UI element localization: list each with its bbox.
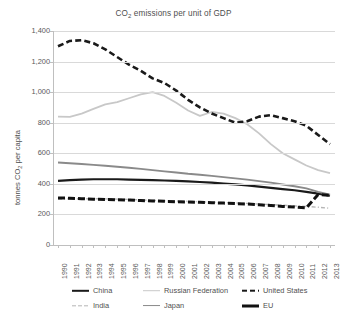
x-axis-tick-label: 1992	[85, 263, 92, 279]
series-line-china	[58, 179, 330, 196]
y-axis-tick-label: 200	[6, 210, 50, 217]
x-axis-tickmark	[129, 245, 130, 248]
x-axis-tick-label: 1996	[132, 263, 139, 279]
series-line-russian-federation	[58, 92, 330, 173]
gridline	[53, 214, 335, 215]
chart-title: CO2 emissions per unit of GDP	[0, 9, 347, 18]
x-axis-tickmark	[330, 245, 331, 248]
x-axis-tick-label: 2009	[286, 263, 293, 279]
x-axis-tick-label: 2001	[191, 263, 198, 279]
x-axis-tick-label: 2000	[179, 263, 186, 279]
chart-title-text-main: CO	[116, 9, 128, 18]
x-axis-tick-label: 1994	[108, 263, 115, 279]
legend-item-china[interactable]: China	[72, 286, 112, 295]
x-axis-tickmark	[224, 245, 225, 248]
x-axis-tickmark	[200, 245, 201, 248]
y-axis-tickmark	[50, 245, 53, 246]
x-axis-tickmark	[283, 245, 284, 248]
legend-item-japan[interactable]: Japan	[143, 301, 184, 310]
x-axis-tick-label: 2012	[321, 263, 328, 279]
y-axis-tick-label: 1,200	[6, 58, 50, 65]
x-axis-tickmark	[259, 245, 260, 248]
x-axis-tick-label: 2006	[250, 263, 257, 279]
x-axis-tick-label: 1991	[73, 263, 80, 279]
x-axis-tickmark	[318, 245, 319, 248]
y-axis-line	[53, 31, 54, 245]
legend-label: India	[93, 301, 109, 310]
legend-swatch-icon	[242, 302, 259, 309]
gridline	[53, 62, 335, 63]
y-axis-tick-label: 0	[6, 241, 50, 248]
x-axis-tickmark	[105, 245, 106, 248]
x-axis-tick-label: 2005	[238, 263, 245, 279]
gridline	[53, 184, 335, 185]
x-axis-tick-label: 2008	[274, 263, 281, 279]
legend-swatch-icon	[72, 302, 89, 309]
gridline	[53, 245, 335, 246]
x-axis-tickmark	[247, 245, 248, 248]
x-axis-tickmark	[212, 245, 213, 248]
legend-item-eu[interactable]: EU	[242, 301, 273, 310]
x-axis-tick-label: 2003	[215, 263, 222, 279]
gridline	[53, 31, 335, 32]
gridline	[53, 123, 335, 124]
legend-label: Russian Federation	[164, 286, 228, 295]
x-axis-tick-label: 1999	[167, 263, 174, 279]
gridline	[53, 153, 335, 154]
legend-item-united-states[interactable]: United States	[242, 286, 307, 295]
x-axis-tickmark	[93, 245, 94, 248]
x-axis-tick-label: 2011	[309, 264, 316, 279]
x-axis-tick-label: 2010	[298, 263, 305, 279]
x-axis-tickmark	[141, 245, 142, 248]
x-axis-tickmark	[176, 245, 177, 248]
y-axis-tick-label: 1,000	[6, 88, 50, 95]
x-axis-tick-label: 1995	[120, 263, 127, 279]
chart-title-text-rest: emissions per unit of GDP	[131, 9, 231, 18]
x-axis-tick-label: 1993	[96, 263, 103, 279]
x-axis-tick-label: 2013	[333, 263, 340, 279]
y-axis-tick-label: 600	[6, 149, 50, 156]
legend-swatch-icon	[143, 287, 160, 294]
y-axis-tick-label: 1,400	[6, 27, 50, 34]
x-axis-tick-label: 1998	[156, 263, 163, 279]
legend-label: Japan	[164, 301, 184, 310]
x-axis-tick-label: 1997	[144, 263, 151, 279]
x-axis-tickmark	[271, 245, 272, 248]
x-axis-tick-label: 1990	[61, 263, 68, 279]
legend-row-2: IndiaJapanEU	[0, 301, 347, 316]
x-axis-tickmark	[295, 245, 296, 248]
x-axis-tickmark	[153, 245, 154, 248]
chart-title-subscript: 2	[128, 13, 131, 19]
x-axis-tickmark	[188, 245, 189, 248]
legend-swatch-icon	[143, 302, 160, 309]
x-axis-tick-label: 2002	[203, 263, 210, 279]
x-axis-tickmark	[306, 245, 307, 248]
legend-label: United States	[263, 286, 307, 295]
series-lines	[53, 31, 335, 245]
x-axis-tick-label: 2007	[262, 263, 269, 279]
x-axis-tickmark	[70, 245, 71, 248]
x-axis-tickmark	[58, 245, 59, 248]
x-axis-tickmark	[117, 245, 118, 248]
x-axis-tick-label: 2004	[227, 263, 234, 279]
plot-area	[53, 31, 335, 245]
gridline	[53, 92, 335, 93]
chart-container: CO2 emissions per unit of GDP tonnes CO2…	[0, 0, 347, 328]
y-axis-tick-label: 400	[6, 180, 50, 187]
legend-label: China	[93, 286, 112, 295]
x-axis-ticks: 1990199119921993199419951996199719981999…	[53, 248, 335, 282]
series-line-eu	[58, 195, 330, 208]
chart-legend: ChinaRussian FederationUnited States Ind…	[0, 286, 347, 320]
legend-item-russian-federation[interactable]: Russian Federation	[143, 286, 228, 295]
legend-label: EU	[263, 301, 273, 310]
legend-swatch-icon	[72, 287, 89, 294]
y-axis-tick-label: 800	[6, 119, 50, 126]
x-axis-tickmark	[164, 245, 165, 248]
legend-row-1: ChinaRussian FederationUnited States	[0, 286, 347, 301]
x-axis-tickmark	[235, 245, 236, 248]
y-axis-ticks: 1,4001,2001,0008006004002000	[2, 0, 50, 328]
legend-swatch-icon	[242, 287, 259, 294]
x-axis-tickmark	[82, 245, 83, 248]
legend-item-india[interactable]: India	[72, 301, 109, 310]
